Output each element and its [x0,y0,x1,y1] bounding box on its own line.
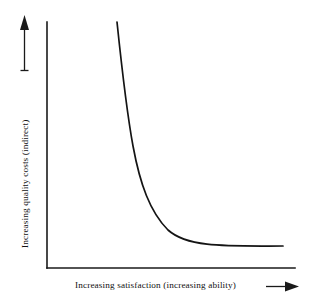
right-arrow-icon [285,282,299,292]
up-arrow-icon [20,15,29,30]
chart-canvas [0,0,309,298]
chart-figure: Increasing satisfaction (increasing abil… [0,0,309,298]
y-axis-label: Increasing quality costs (indirect) [21,120,30,248]
cost-curve [117,22,283,246]
x-axis-label: Increasing satisfaction (increasing abil… [75,281,236,290]
